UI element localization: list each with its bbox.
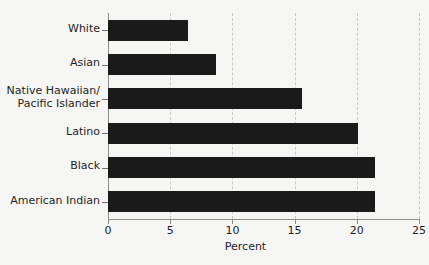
bar-chart: Percent 0510152025WhiteAsianNative Hawai… <box>0 0 429 265</box>
bar <box>108 20 188 41</box>
x-tick-label-5: 5 <box>150 224 190 237</box>
x-tick-label-15: 15 <box>275 224 315 237</box>
x-tick-label-20: 20 <box>337 224 377 237</box>
category-label: Latino <box>0 126 100 139</box>
gridline-20 <box>357 13 358 219</box>
y-axis-line <box>108 13 109 219</box>
plot-area <box>108 13 419 219</box>
bar-row <box>108 191 419 212</box>
category-label: American Indian <box>0 195 100 208</box>
x-axis-line <box>108 219 420 220</box>
x-tick-label-10: 10 <box>212 224 252 237</box>
category-tick-mark <box>102 168 108 169</box>
category-label: Asian <box>0 57 100 70</box>
bar-row <box>108 157 419 178</box>
category-label: White <box>0 23 100 36</box>
gridline-5 <box>170 13 171 219</box>
x-axis-title-label: Percent <box>225 240 266 253</box>
category-tick-mark <box>102 30 108 31</box>
gridline-10 <box>232 13 233 219</box>
gridline-15 <box>295 13 296 219</box>
x-tick-label-25: 25 <box>399 224 429 237</box>
category-tick-mark <box>102 202 108 203</box>
x-tick-label-0: 0 <box>88 224 128 237</box>
bar <box>108 157 375 178</box>
category-label: Native Hawaiian/ Pacific Islander <box>0 85 100 110</box>
category-tick-mark <box>102 99 108 100</box>
x-axis-title: Percent <box>0 240 429 253</box>
bar <box>108 54 216 75</box>
category-tick-mark <box>102 65 108 66</box>
category-tick-mark <box>102 133 108 134</box>
gridline-25 <box>419 13 420 219</box>
bar-row <box>108 54 419 75</box>
bar <box>108 123 358 144</box>
bar-row <box>108 20 419 41</box>
category-label: Black <box>0 160 100 173</box>
bar <box>108 88 302 109</box>
bar <box>108 191 375 212</box>
bar-row <box>108 88 419 109</box>
bar-row <box>108 123 419 144</box>
